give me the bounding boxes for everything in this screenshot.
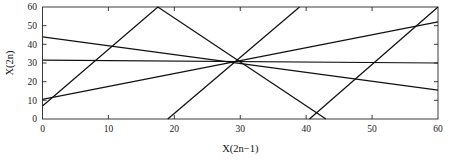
x-tick-label: 50 [367,124,377,134]
axis-labels-group: 01020304050600102030405060X(2n−1)X(2n) [4,2,444,155]
data-line-segment-4 [43,7,326,119]
y-tick-label: 40 [28,40,38,50]
x-tick-label: 30 [236,124,246,134]
y-tick-label: 20 [28,77,38,87]
data-line-segment-1 [43,37,439,90]
y-tick-label: 60 [28,2,38,12]
y-tick-label: 30 [28,58,38,68]
x-tick-label: 20 [170,124,180,134]
y-tick-label: 10 [28,96,38,106]
data-lines-group [43,7,439,119]
y-axis-title: X(2n) [4,50,16,76]
chart-canvas: 01020304050600102030405060X(2n−1)X(2n) [0,0,455,162]
data-line-segment-5 [168,7,300,119]
x-tick-label: 0 [40,124,45,134]
y-tick-label: 0 [32,114,37,124]
x-tick-label: 60 [433,124,443,134]
figure-container: 01020304050600102030405060X(2n−1)X(2n) [0,0,455,162]
x-tick-label: 40 [301,124,311,134]
x-axis-title: X(2n−1) [222,143,259,155]
y-tick-label: 50 [28,21,38,31]
x-tick-label: 10 [104,124,114,134]
